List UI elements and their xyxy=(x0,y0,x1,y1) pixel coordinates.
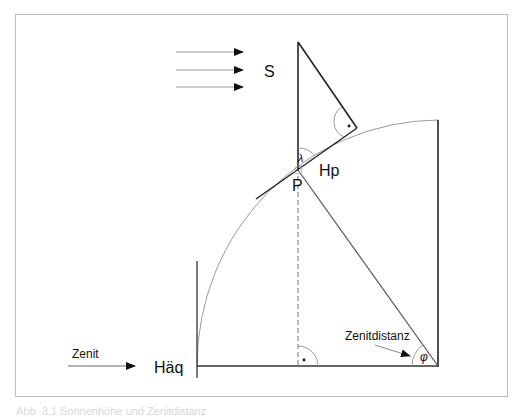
diagram-canvas: S P Hp Häq Zenit Zenitdistanz λ φ xyxy=(0,0,523,417)
label-equator-plane: Häq xyxy=(154,359,183,376)
label-lambda: λ xyxy=(297,152,303,164)
figure-caption: Abb. 3.1 Sonnenhöhe und Zenitdistanz xyxy=(16,405,206,417)
triangle-hypotenuse xyxy=(298,42,357,128)
label-zenith-distance: Zenitdistanz xyxy=(345,329,410,343)
label-zenith: Zenit xyxy=(72,347,99,361)
label-phi: φ xyxy=(420,350,428,364)
label-point: P xyxy=(292,177,303,194)
tangent-line xyxy=(256,128,357,199)
label-sun: S xyxy=(264,63,275,80)
right-angle-arc-triangle xyxy=(334,107,344,137)
sun-rays xyxy=(176,52,243,87)
right-angle-arc-foot xyxy=(298,346,318,366)
zenith-distance-arrow xyxy=(375,345,410,356)
label-tangent-plane: Hp xyxy=(319,162,340,179)
